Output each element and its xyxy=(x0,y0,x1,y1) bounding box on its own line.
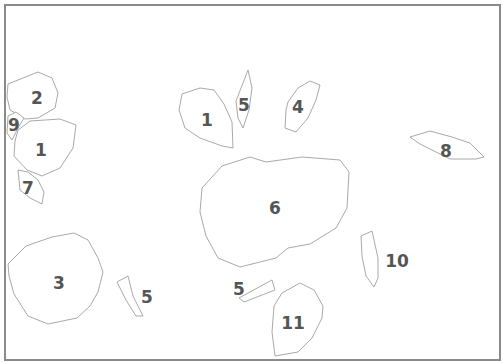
region-label: 5 xyxy=(141,287,153,307)
region-label: 1 xyxy=(201,110,213,130)
region-label: 1 xyxy=(35,140,47,160)
region-label: 10 xyxy=(385,251,409,271)
region-label: 7 xyxy=(22,178,34,198)
region-label: 4 xyxy=(292,97,304,117)
region-label: 5 xyxy=(238,95,250,115)
region-label: 3 xyxy=(53,273,65,293)
region-label: 2 xyxy=(31,88,43,108)
region-label: 6 xyxy=(269,198,281,218)
diagram-canvas: 2917351546511108 xyxy=(0,0,503,363)
region-label: 8 xyxy=(440,141,452,161)
region-label: 11 xyxy=(281,313,305,333)
region-label: 5 xyxy=(233,279,245,299)
